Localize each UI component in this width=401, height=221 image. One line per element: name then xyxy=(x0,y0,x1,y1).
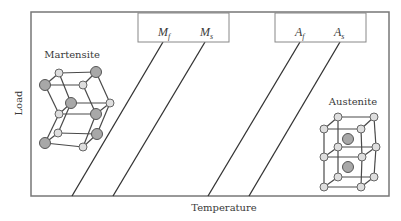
martensite-crystal-icon xyxy=(40,67,115,152)
line-as xyxy=(249,42,340,196)
austenite-temperature-box: Af As xyxy=(275,13,366,42)
line-ms xyxy=(113,42,205,196)
austenite-crystal-icon xyxy=(320,113,380,191)
shape-memory-diagram: Mf Ms Af As Temperature Load Martensite … xyxy=(0,0,401,221)
martensite-label: Martensite xyxy=(44,49,100,60)
austenite-label-box xyxy=(275,13,366,42)
austenite-label: Austenite xyxy=(328,96,377,107)
line-af xyxy=(208,42,300,196)
line-mf xyxy=(72,42,163,196)
x-axis-label: Temperature xyxy=(191,202,257,213)
martensite-label-box xyxy=(138,13,229,42)
martensite-temperature-box: Mf Ms xyxy=(138,13,229,42)
transformation-lines xyxy=(72,42,340,196)
y-axis-label: Load xyxy=(13,90,24,116)
